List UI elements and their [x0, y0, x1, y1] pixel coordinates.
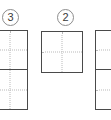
center-guide-horizontal-icon — [96, 89, 111, 90]
panel-tile[interactable] — [95, 70, 111, 110]
panel-group-middle[interactable] — [41, 31, 83, 73]
step-badge-3[interactable]: 3 — [2, 9, 19, 26]
step-badge-2[interactable]: 2 — [57, 9, 74, 26]
panel-tile[interactable] — [0, 70, 28, 110]
panel-tile[interactable] — [41, 31, 83, 73]
panel-tile[interactable] — [95, 30, 111, 70]
panel-tile[interactable] — [0, 30, 28, 70]
center-guide-horizontal-icon — [0, 50, 27, 51]
panel-group-right[interactable] — [95, 30, 111, 110]
panel-group-left[interactable] — [0, 30, 28, 110]
center-guide-horizontal-icon — [42, 52, 82, 53]
panel-canvas: 3 2 — [0, 0, 111, 120]
center-guide-horizontal-icon — [0, 89, 27, 90]
center-guide-horizontal-icon — [96, 50, 111, 51]
